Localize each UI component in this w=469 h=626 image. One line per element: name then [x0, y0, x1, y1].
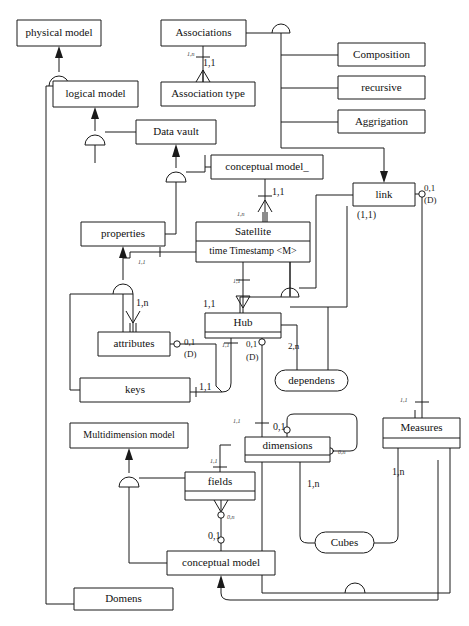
entity-satellite[interactable]	[196, 222, 310, 262]
entity-composition[interactable]	[338, 43, 425, 66]
entity-shape	[205, 313, 281, 338]
connector-fields-conceptualmodel	[214, 500, 228, 551]
entity-conceptual_model[interactable]	[167, 551, 275, 575]
entity-attributes[interactable]	[98, 332, 170, 356]
entity-shape	[70, 423, 188, 448]
entity-aggrigation[interactable]	[338, 110, 425, 133]
connector-satellite-properties	[123, 247, 196, 258]
entity-shape	[353, 183, 415, 206]
diagram-connectors	[0, 0, 469, 626]
entity-link[interactable]	[353, 183, 415, 206]
entity-shape	[17, 20, 101, 46]
entity-measures[interactable]	[383, 418, 460, 448]
entity-shape	[315, 532, 374, 553]
entity-dimensions[interactable]	[245, 437, 330, 462]
entity-shape	[185, 472, 255, 500]
entity-shape	[338, 110, 425, 133]
connector-cmu-satellite	[258, 179, 272, 222]
entity-shape	[167, 551, 275, 575]
entity-shape	[98, 332, 170, 356]
entity-shape	[80, 378, 190, 402]
entity-recursive[interactable]	[338, 76, 425, 99]
connector-keys-right	[190, 338, 238, 397]
entity-dependens[interactable]	[275, 370, 348, 391]
connector-logical-datavault	[85, 107, 136, 163]
entity-hub[interactable]	[205, 313, 281, 338]
connector-fields-top	[213, 445, 231, 472]
entity-associations[interactable]	[161, 20, 246, 46]
entity-conceptual_model_u[interactable]	[211, 155, 323, 179]
entity-shape	[383, 418, 460, 448]
connector-properties-attributes	[113, 246, 140, 332]
entity-shape	[136, 120, 216, 144]
entity-keys[interactable]	[80, 378, 190, 402]
entity-domens[interactable]	[74, 588, 173, 610]
connector-measures-cubes	[374, 448, 398, 543]
entity-physical_model[interactable]	[17, 20, 101, 46]
entity-shape	[338, 76, 425, 99]
entity-shape	[81, 222, 165, 246]
entity-association_type[interactable]	[161, 82, 255, 106]
er-diagram-canvas: physical modelAssociationsCompositionlog…	[0, 0, 469, 626]
entity-cubes[interactable]	[315, 532, 374, 553]
entity-shape	[245, 437, 330, 462]
entity-shape	[196, 222, 310, 262]
entity-shape	[211, 155, 323, 179]
entity-multidimension_model[interactable]	[70, 423, 188, 448]
connector-hub-dependens	[281, 325, 297, 370]
entity-shape	[161, 20, 246, 46]
entity-shape	[338, 43, 425, 66]
connector-associations-assoctype	[196, 46, 210, 82]
entity-shape	[161, 82, 255, 106]
entity-logical_model[interactable]	[53, 81, 138, 107]
connector-multidim-arc	[119, 448, 185, 563]
entity-data_vault[interactable]	[136, 120, 216, 144]
connector-dimensions-cubes	[300, 462, 315, 543]
entity-shape	[275, 370, 348, 391]
entity-fields[interactable]	[185, 472, 255, 500]
entity-properties[interactable]	[81, 222, 165, 246]
connector-satellite-hub	[236, 262, 250, 313]
entity-shape	[74, 588, 173, 610]
entity-shape	[53, 81, 138, 107]
connector-hub-optional-down	[255, 338, 269, 437]
connector-link-measures	[415, 191, 429, 418]
connector-datavault-children	[165, 144, 205, 234]
connector-bottom-arc	[262, 448, 450, 593]
